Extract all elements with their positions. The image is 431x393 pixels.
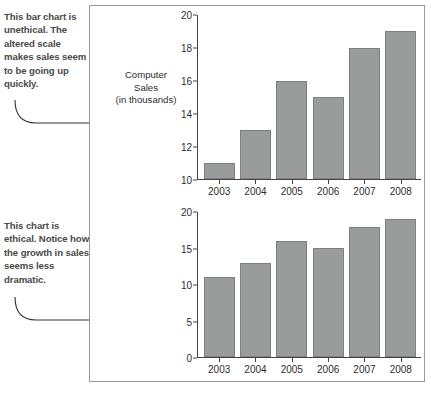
- bar-top-2003: [204, 163, 235, 179]
- bar-slot: [237, 15, 273, 179]
- x-tick-label: 2006: [310, 186, 346, 197]
- bar-slot: [310, 212, 346, 357]
- bar-slot: [237, 212, 273, 357]
- x-tick-label: 2008: [383, 186, 419, 197]
- x-axis-labels-top: 200320042005200620072008: [198, 180, 421, 197]
- x-tick-top-2003: 2003: [201, 180, 237, 197]
- bar-slot: [201, 212, 237, 357]
- x-tick-mark: [401, 180, 402, 184]
- bar-top-2007: [349, 48, 380, 179]
- x-tick-mark: [292, 358, 293, 362]
- bar-slot: [383, 15, 419, 179]
- x-tick-top-2007: 2007: [346, 180, 382, 197]
- bar-bottom-2005: [276, 241, 307, 357]
- x-tick-top-2006: 2006: [310, 180, 346, 197]
- x-tick-bottom-2003: 2003: [201, 358, 237, 375]
- x-tick-label: 2007: [346, 364, 382, 375]
- chart-truncated-axis: Computer Sales (in thousands) 20 18 16: [90, 9, 426, 194]
- bar-bottom-2006: [313, 248, 344, 357]
- x-tick-label: 2004: [237, 364, 273, 375]
- figure-frame: Computer Sales (in thousands) 20 18 16: [89, 5, 425, 382]
- bar-slot: [310, 15, 346, 179]
- bar-top-2005: [276, 81, 307, 179]
- bar-slot: [383, 212, 419, 357]
- x-tick-label: 2004: [237, 186, 273, 197]
- bar-group-bottom: [198, 212, 421, 357]
- x-axis-labels-bottom: 200320042005200620072008: [198, 358, 421, 375]
- x-tick-mark: [364, 358, 365, 362]
- x-tick-bottom-2006: 2006: [310, 358, 346, 375]
- bar-top-2008: [385, 31, 416, 179]
- bar-top-2006: [313, 97, 344, 179]
- bar-slot: [274, 212, 310, 357]
- bar-slot: [346, 212, 382, 357]
- annotation-note-ethical: This chart is ethical. Notice how the gr…: [4, 219, 90, 286]
- bar-slot: [201, 15, 237, 179]
- x-tick-bottom-2007: 2007: [346, 358, 382, 375]
- bar-bottom-2007: [349, 227, 380, 358]
- x-tick-mark: [255, 358, 256, 362]
- x-tick-mark: [364, 180, 365, 184]
- plot-area-top: 20 18 16 14 12 10 200320: [197, 15, 421, 180]
- x-tick-top-2005: 2005: [274, 180, 310, 197]
- x-tick-label: 2005: [274, 186, 310, 197]
- x-tick-label: 2003: [201, 364, 237, 375]
- bar-bottom-2004: [240, 263, 271, 357]
- bar-top-2004: [240, 130, 271, 179]
- bar-bottom-2003: [204, 277, 235, 357]
- x-tick-top-2008: 2008: [383, 180, 419, 197]
- plot-area-bottom: 20 15 10 5 0 200320042005200620072008: [197, 212, 421, 358]
- x-tick-top-2004: 2004: [237, 180, 273, 197]
- x-tick-mark: [328, 180, 329, 184]
- chart-zero-baseline: Computer Sales (in thousands) 20 15 10: [90, 204, 426, 382]
- x-tick-mark: [328, 358, 329, 362]
- bar-slot: [274, 15, 310, 179]
- x-tick-label: 2003: [201, 186, 237, 197]
- bar-bottom-2008: [385, 219, 416, 357]
- x-tick-label: 2007: [346, 186, 382, 197]
- x-tick-bottom-2008: 2008: [383, 358, 419, 375]
- annotation-note-unethical: This bar chart is unethical. The altered…: [4, 10, 90, 90]
- x-tick-mark: [219, 358, 220, 362]
- x-tick-mark: [401, 358, 402, 362]
- x-tick-bottom-2005: 2005: [274, 358, 310, 375]
- x-tick-mark: [255, 180, 256, 184]
- x-tick-mark: [292, 180, 293, 184]
- y-axis-caption-line-3: (in thousands): [96, 94, 196, 107]
- x-tick-bottom-2004: 2004: [237, 358, 273, 375]
- x-tick-mark: [219, 180, 220, 184]
- x-tick-label: 2005: [274, 364, 310, 375]
- x-tick-label: 2008: [383, 364, 419, 375]
- bar-group-top: [198, 15, 421, 179]
- x-tick-label: 2006: [310, 364, 346, 375]
- bar-slot: [346, 15, 382, 179]
